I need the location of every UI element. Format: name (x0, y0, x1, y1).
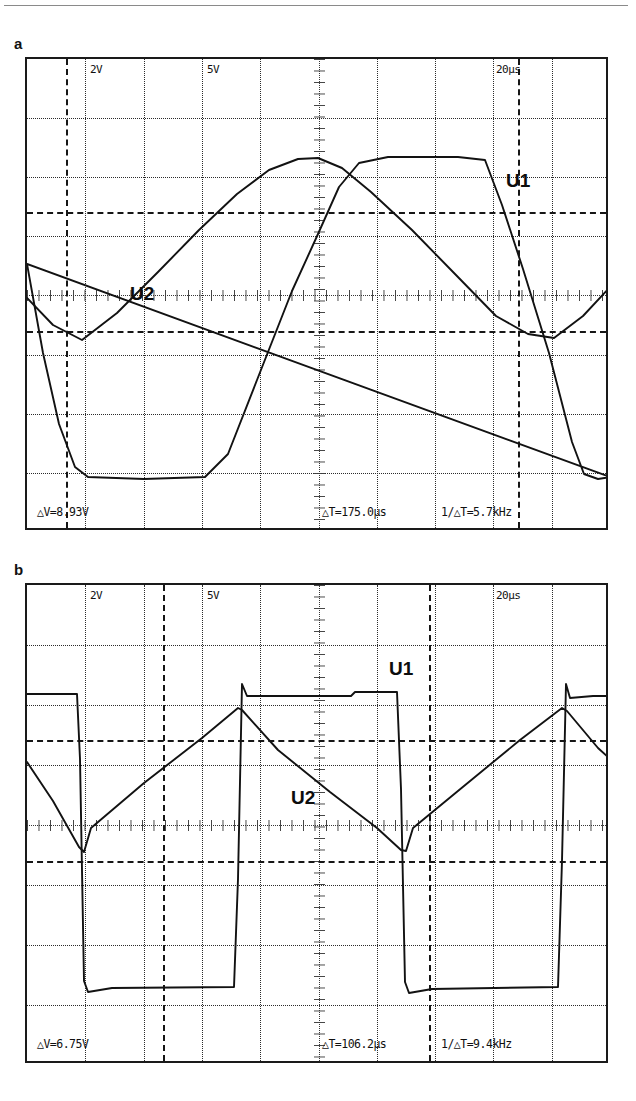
waveform-traces-a (27, 59, 608, 530)
trace-u1 (27, 684, 608, 993)
header-divider (4, 5, 628, 6)
oscilloscope-screen-a: 2V 5V 20µs U2 U1 △V=8.93V △T=175.0µs 1/△… (25, 57, 608, 530)
readout-delta-v-b: △V=6.75V (37, 1039, 88, 1051)
readout-inv-delta-t-a: 1/△T=5.7kHz (441, 507, 512, 519)
trace-u1 (27, 157, 608, 479)
readout-timebase-b: 20µs (496, 590, 521, 601)
readout-delta-v-a: △V=8.93V (37, 507, 88, 519)
readout-ch2-scale-b: 5V (207, 590, 219, 601)
readout-ch2-scale-a: 5V (207, 64, 219, 75)
trace-label-u1-a: U1 (506, 171, 530, 190)
waveform-traces-b (27, 585, 608, 1063)
readout-ch1-scale-a: 2V (90, 64, 102, 75)
oscilloscope-screen-b: 2V 5V 20µs U1 U2 △V=6.75V △T=106.2µs 1/△… (25, 583, 608, 1063)
trace-label-u2-a: U2 (130, 284, 154, 303)
readout-delta-t-b: △T=106.2µs (322, 1039, 386, 1051)
panel-a-letter: a (14, 36, 22, 51)
panel-b-letter: b (14, 562, 23, 577)
trace-label-u2-b: U2 (291, 788, 315, 807)
readout-timebase-a: 20µs (496, 64, 521, 75)
trace-label-u1-b: U1 (389, 659, 413, 678)
readout-delta-t-a: △T=175.0µs (322, 507, 386, 519)
readout-inv-delta-t-b: 1/△T=9.4kHz (441, 1039, 512, 1051)
trace-u2 (27, 708, 608, 852)
readout-ch1-scale-b: 2V (90, 590, 102, 601)
